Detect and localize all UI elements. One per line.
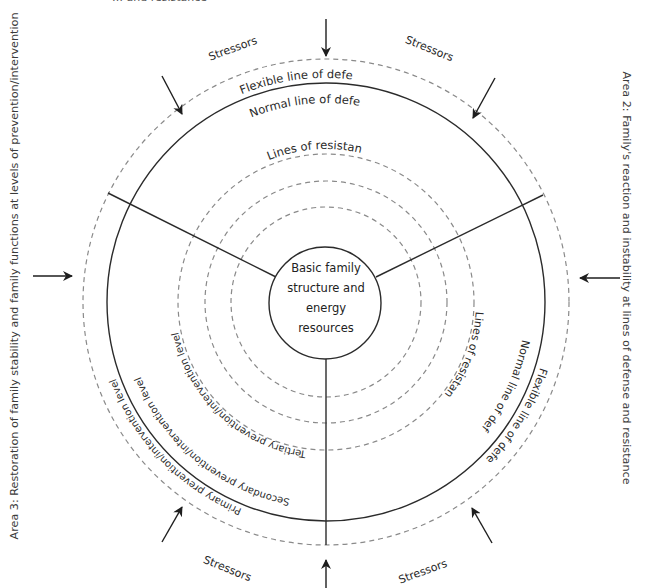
arrow-bottom-right-icon <box>472 508 492 543</box>
stressors-label-top-right: Stressors <box>403 33 455 64</box>
core-label-line-1: Basic family <box>270 258 382 278</box>
arrow-bottom-left-icon <box>162 507 182 542</box>
primary-prevention-label: Primary prevention/intervention level <box>107 378 243 518</box>
normal-line-label-right: Normal line of defense <box>0 0 532 435</box>
divider-upper-left <box>108 193 276 277</box>
arrow-top-left-icon <box>162 76 182 114</box>
normal-line-label-right-path: Normal line of defense <box>0 0 532 435</box>
primary-prevention-label-path: Primary prevention/intervention level <box>107 378 243 518</box>
core-label-line-3: energy <box>270 298 382 318</box>
flexible-line-label-top: Flexible line of defense <box>0 0 353 97</box>
core-label-line-4: resources <box>270 318 382 338</box>
tertiary-prevention-label-path: Tertiary prevention/intervention level <box>169 331 307 460</box>
flexible-line-label-right-path: Flexible line of defense <box>0 0 550 466</box>
stressors-label-top-left: Stressors <box>207 34 259 64</box>
flexible-line-label-right: Flexible line of defense <box>0 0 550 466</box>
stressors-label-bottom-left: Stressors <box>201 553 253 584</box>
core-label: Basic family structure and energy resour… <box>270 258 382 338</box>
arrow-top-right-icon <box>473 78 495 118</box>
core-label-line-2: structure and <box>270 278 382 298</box>
flexible-line-label-top-path: Flexible line of defense <box>0 0 353 97</box>
stressors-label-bottom-right: Stressors <box>397 557 449 587</box>
tertiary-prevention-label: Tertiary prevention/intervention level <box>169 331 307 460</box>
